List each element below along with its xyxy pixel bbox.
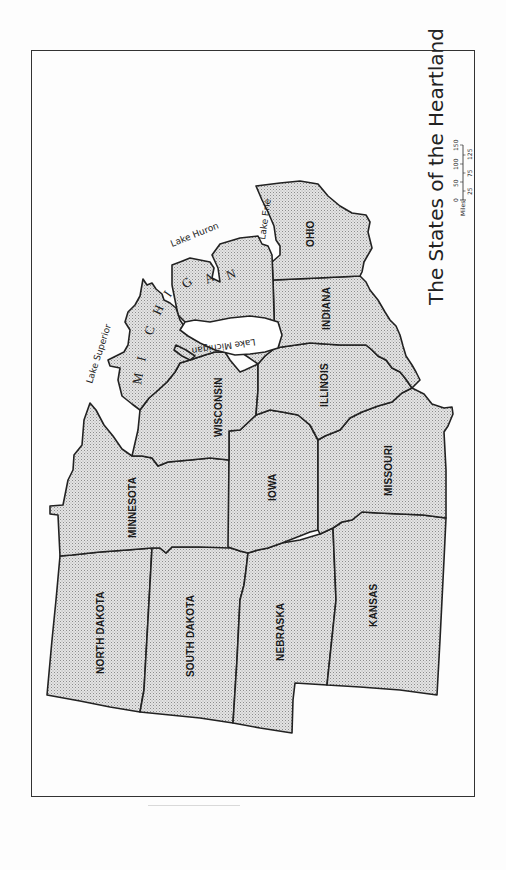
scale-tick-100: 100 xyxy=(452,158,459,170)
lake-huron-label: Lake Huron xyxy=(169,220,220,248)
label-indiana: INDIANA xyxy=(321,287,332,330)
scale-unit-label: Miles xyxy=(459,201,466,216)
map-title: The States of the Heartland xyxy=(424,28,448,306)
scale-bar: Miles 0 50 100 150 25 75 125 xyxy=(452,139,473,216)
label-north-dakota: NORTH DAKOTA xyxy=(95,591,106,674)
label-wisconsin: WISCONSIN xyxy=(213,377,224,437)
label-minnesota: MINNESOTA xyxy=(127,477,138,538)
heartland-map: Lake Superior Lake Michigan Lake Huron L… xyxy=(0,0,506,870)
scale-tick-0: 0 xyxy=(452,198,459,202)
label-nebraska: NEBRASKA xyxy=(275,603,286,661)
scale-tick-25: 25 xyxy=(466,187,473,195)
label-illinois: ILLINOIS xyxy=(319,363,330,407)
state-kansas[interactable] xyxy=(327,512,446,695)
scale-tick-50: 50 xyxy=(452,179,459,187)
lake-superior-label: Lake Superior xyxy=(84,322,113,384)
scale-tick-75: 75 xyxy=(466,169,473,177)
scale-tick-125: 125 xyxy=(466,148,473,160)
label-south-dakota: SOUTH DAKOTA xyxy=(185,595,196,677)
label-ohio: OHIO xyxy=(305,221,316,247)
scale-tick-150: 150 xyxy=(452,139,459,151)
label-missouri: MISSOURI xyxy=(383,445,394,496)
label-iowa: IOWA xyxy=(267,474,278,501)
page: Lake Superior Lake Michigan Lake Huron L… xyxy=(0,0,506,870)
label-kansas: KANSAS xyxy=(368,583,379,627)
